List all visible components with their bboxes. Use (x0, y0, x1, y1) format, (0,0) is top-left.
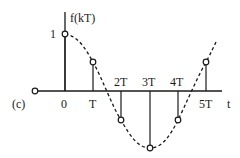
tick-label-3T: 3T (142, 76, 155, 88)
tick-label-T: T (89, 98, 96, 110)
tick-label-0: 0 (61, 98, 67, 110)
tick-label-5T: 5T (199, 98, 212, 110)
sample-circle-T (90, 59, 96, 65)
axis-left-end-circle (32, 88, 38, 94)
sample-circle-4T (175, 117, 181, 123)
sample-circle-2T (118, 117, 124, 123)
x-axis-label: t (227, 98, 230, 110)
sample-circle-3T (147, 145, 153, 151)
tick-label-4T: 4T (170, 76, 183, 88)
panel-label: (c) (12, 98, 25, 110)
sample-circle-0 (62, 31, 68, 37)
y-axis-label: f(kT) (70, 12, 95, 24)
sample-circle-5T (203, 59, 209, 65)
y-tick-label-1: 1 (50, 28, 56, 40)
tick-label-2T: 2T (114, 76, 127, 88)
